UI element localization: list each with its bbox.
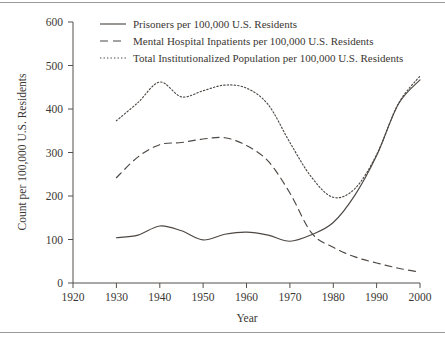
series-line-mental-hospital	[116, 137, 420, 272]
x-tick-labels: 1920 1930 1940 1950 1960 1970 1980 1990 …	[62, 291, 432, 303]
y-tick-labels: 600 500 400 300 200 100 0	[46, 16, 64, 289]
y-tick-label-100: 100	[46, 234, 64, 246]
x-tick-label-1970: 1970	[278, 291, 301, 303]
y-axis-title: Count per 100,000 U.S. Residents	[16, 73, 29, 230]
page-rule-top	[0, 2, 445, 3]
line-chart: 600 500 400 300 200 100 0 1920 1930 1940…	[0, 0, 445, 344]
x-tick-label-1930: 1930	[105, 291, 128, 303]
legend-label-prisoners: Prisoners per 100,000 U.S. Residents	[133, 18, 297, 30]
y-tick-label-600: 600	[46, 16, 64, 28]
legend-entry-mental-hospital: Mental Hospital Inpatients per 100,000 U…	[100, 35, 373, 47]
legend-entry-prisoners: Prisoners per 100,000 U.S. Residents	[100, 18, 297, 30]
series-group	[116, 76, 420, 272]
x-axis-title: Year	[236, 312, 257, 324]
chart-figure: 600 500 400 300 200 100 0 1920 1930 1940…	[0, 0, 445, 344]
chart-legend: Prisoners per 100,000 U.S. Residents Men…	[100, 18, 403, 64]
x-tick-label-1990: 1990	[365, 291, 388, 303]
legend-label-total-institutionalized: Total Institutionalized Population per 1…	[133, 52, 403, 64]
x-tick-label-1920: 1920	[62, 291, 85, 303]
y-tick-label-200: 200	[46, 190, 64, 202]
x-tick-label-1960: 1960	[235, 291, 258, 303]
x-tick-label-1950: 1950	[192, 291, 215, 303]
legend-label-mental-hospital: Mental Hospital Inpatients per 100,000 U…	[133, 35, 373, 47]
y-tick-label-400: 400	[46, 103, 64, 115]
x-tick-label-2000: 2000	[409, 291, 432, 303]
y-tick-label-300: 300	[46, 147, 64, 159]
y-tick-label-0: 0	[57, 277, 63, 289]
x-tick-label-1940: 1940	[148, 291, 171, 303]
y-tick-label-500: 500	[46, 60, 64, 72]
series-line-total-institutionalized	[116, 76, 420, 198]
legend-entry-total-institutionalized: Total Institutionalized Population per 1…	[100, 52, 403, 64]
x-tick-label-1980: 1980	[322, 291, 345, 303]
page-rule-bottom	[0, 332, 445, 333]
